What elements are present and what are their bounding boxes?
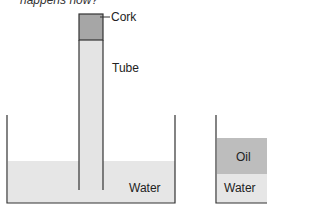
oil-label: Oil: [236, 150, 251, 164]
tube-label: Tube: [112, 61, 139, 75]
water-right-label: Water: [224, 181, 256, 195]
water-left-label: Water: [129, 181, 161, 195]
cork: [79, 14, 103, 40]
tube-fill: [79, 40, 103, 190]
cork-label: Cork: [111, 10, 136, 24]
